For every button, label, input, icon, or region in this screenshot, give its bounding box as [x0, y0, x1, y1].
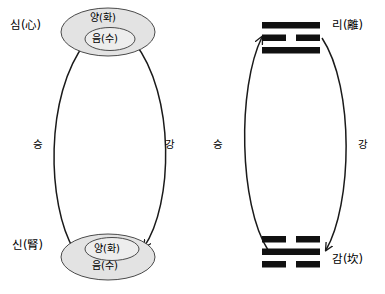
li-line-3-solid: [262, 47, 320, 54]
diagram-graphics: [0, 0, 385, 294]
right-ascending-arrow: [245, 37, 268, 250]
heart-outer-phase-label: 양(화): [90, 12, 116, 24]
kidney-organ-label: 신(腎): [12, 239, 43, 251]
left-descending-flow-label: 강: [165, 138, 175, 150]
li-line-1-solid: [262, 22, 320, 29]
kan-trigram-label: 감(坎): [332, 253, 363, 265]
left-ascending-flow-label: 승: [33, 138, 43, 150]
kidney-inner-phase-label: 양(화): [94, 243, 120, 255]
kan-line-1-broken-left: [262, 236, 286, 243]
kan-trigram: [262, 236, 320, 268]
li-line-2-broken-right: [296, 35, 320, 42]
kan-line-2-solid: [262, 249, 320, 256]
li-trigram: [262, 22, 320, 54]
heart-organ-label: 심(心): [10, 19, 41, 31]
kan-line-3-broken-left: [262, 261, 286, 268]
left-descending-arrow: [134, 42, 166, 247]
kan-line-1-broken-right: [296, 236, 320, 243]
right-descending-flow-label: 강: [358, 138, 368, 150]
kan-line-3-broken-right: [296, 261, 320, 268]
diagram-canvas: 심(心) 양(화) 음(수) 신(腎) 양(화) 음(수) 승 강 리(離) 감…: [0, 0, 385, 294]
heart-inner-phase-label: 음(수): [92, 33, 118, 45]
right-ascending-flow-label: 승: [213, 138, 223, 150]
li-trigram-label: 리(離): [332, 19, 363, 31]
right-descending-arrow: [322, 38, 346, 250]
li-line-2-broken-left: [262, 35, 286, 42]
kidney-outer-phase-label: 음(수): [92, 260, 118, 272]
left-ascending-arrow: [54, 42, 86, 250]
